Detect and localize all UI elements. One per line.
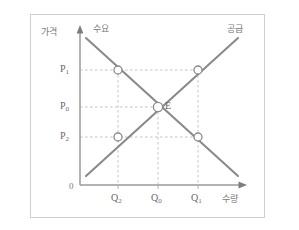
demand-curve-label: 수요	[93, 22, 109, 35]
y-axis-arrow-icon	[77, 25, 84, 34]
x-tick-label-q0: Q0	[151, 192, 162, 203]
marker-equilibrium	[153, 102, 162, 111]
x-tick-q0-sub: 0	[158, 197, 162, 205]
y-tick-p1-sub: 1	[66, 68, 70, 76]
origin-label: 0	[69, 181, 74, 191]
x-tick-q1-sub: 1	[198, 197, 202, 205]
curve-markers	[114, 66, 202, 141]
x-axis-title: 수량	[222, 192, 238, 205]
marker-demand-at-p1	[114, 66, 122, 74]
y-tick-p2-base: P	[60, 130, 66, 141]
y-tick-label-p1: P1	[60, 63, 69, 74]
x-axis-arrow-icon	[239, 182, 248, 189]
x-tick-label-q1: Q1	[191, 192, 202, 203]
equilibrium-label: E	[165, 100, 171, 111]
y-tick-label-p0: P0	[60, 100, 69, 111]
y-tick-p1-base: P	[60, 63, 66, 74]
y-axis-title: 가격	[41, 25, 57, 38]
x-tick-label-q2: Q2	[111, 192, 122, 203]
marker-supply-at-p2	[114, 133, 122, 141]
x-tick-q2-sub: 2	[118, 197, 122, 205]
y-tick-p2-sub: 2	[66, 135, 70, 143]
figure-page: 가격 수량 수요 공급 P1 P0 P2 Q2 Q0 Q1 E 0	[0, 0, 299, 230]
y-tick-label-p2: P2	[60, 130, 69, 141]
marker-supply-at-p1	[194, 66, 202, 74]
y-tick-p0-sub: 0	[66, 105, 70, 113]
y-tick-p0-base: P	[60, 100, 66, 111]
marker-demand-at-p2	[194, 133, 202, 141]
supply-curve-label: 공급	[227, 22, 243, 35]
